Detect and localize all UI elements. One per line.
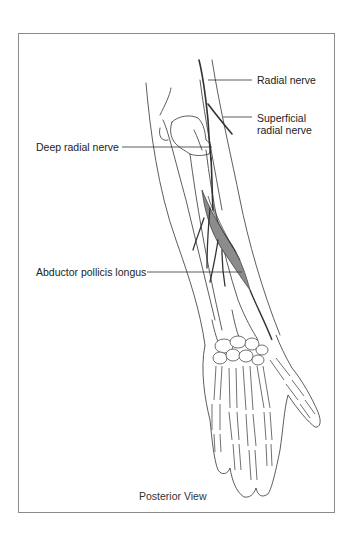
view-caption: Posterior View <box>139 490 207 502</box>
radial-nerve-line <box>199 60 211 160</box>
radial-nerve-label: Radial nerve <box>257 74 316 86</box>
abductor-pollicis-longus-muscle <box>202 190 250 290</box>
forearm-ulnar-contour <box>146 83 205 345</box>
forearm-radial-contour <box>212 60 280 335</box>
abductor-pollicis-longus-label: Abductor pollicis longus <box>36 266 146 278</box>
elbow-bone <box>171 116 211 156</box>
superficial-radial-nerve-label-line1: Superficial <box>257 112 306 124</box>
superficial-radial-nerve-label-line2: radial nerve <box>257 124 312 136</box>
superficial-radial-nerve-line <box>208 104 232 134</box>
deep-radial-nerve-label: Deep radial nerve <box>36 141 119 153</box>
